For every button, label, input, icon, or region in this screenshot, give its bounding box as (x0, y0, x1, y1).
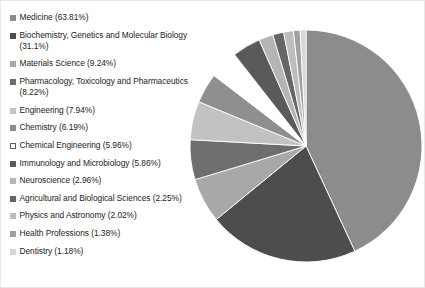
legend-item[interactable]: Materials Science (9.24%) (10, 58, 215, 69)
pie-chart-figure: Medicine (63.81%)Biochemistry, Genetics … (0, 0, 425, 288)
legend-swatch-icon (10, 231, 16, 237)
legend-item-label: Biochemistry, Genetics and Molecular Bio… (20, 30, 216, 52)
legend-swatch-icon (10, 79, 16, 85)
legend-item[interactable]: Pharmacology, Toxicology and Pharmaceuti… (10, 76, 215, 98)
legend-item[interactable]: Dentistry (1.18%) (10, 246, 215, 257)
legend-item-label: Pharmacology, Toxicology and Pharmaceuti… (20, 76, 216, 98)
legend-swatch-icon (10, 143, 16, 149)
legend-swatch-icon (10, 61, 16, 67)
legend-item-label: Neuroscience (2.96%) (20, 175, 102, 186)
legend-swatch-icon (10, 161, 16, 167)
legend-item-label: Materials Science (9.24%) (20, 58, 117, 69)
legend-item-label: Immunology and Microbiology (5.86%) (20, 158, 161, 169)
legend-swatch-icon (10, 213, 16, 219)
legend-swatch-icon (10, 196, 16, 202)
legend-swatch-icon (10, 125, 16, 131)
legend-swatch-icon (10, 33, 16, 39)
legend-swatch-icon (10, 15, 16, 21)
legend-item[interactable]: Health Professions (1.38%) (10, 228, 215, 239)
legend-swatch-icon (10, 178, 16, 184)
legend-item[interactable]: Neuroscience (2.96%) (10, 175, 215, 186)
legend-item[interactable]: Engineering (7.94%) (10, 105, 215, 116)
legend-item[interactable]: Chemical Engineering (5.96%) (10, 140, 215, 151)
legend-item-label: Dentistry (1.18%) (20, 246, 84, 257)
legend-item-label: Health Professions (1.38%) (20, 228, 121, 239)
chart-legend: Medicine (63.81%)Biochemistry, Genetics … (10, 12, 215, 263)
legend-swatch-icon (10, 249, 16, 255)
legend-item[interactable]: Medicine (63.81%) (10, 12, 215, 23)
legend-item[interactable]: Immunology and Microbiology (5.86%) (10, 158, 215, 169)
legend-item[interactable]: Physics and Astronomy (2.02%) (10, 210, 215, 221)
legend-item-label: Medicine (63.81%) (20, 12, 89, 23)
pie-chart-plot-area (189, 29, 423, 263)
legend-item[interactable]: Biochemistry, Genetics and Molecular Bio… (10, 30, 215, 52)
legend-item-label: Engineering (7.94%) (20, 105, 95, 116)
pie-svg (189, 29, 423, 263)
legend-item-label: Chemical Engineering (5.96%) (20, 140, 132, 151)
legend-item[interactable]: Chemistry (6.19%) (10, 122, 215, 133)
legend-item-label: Agricultural and Biological Sciences (2.… (20, 193, 182, 204)
legend-item-label: Physics and Astronomy (2.02%) (20, 210, 137, 221)
legend-item[interactable]: Agricultural and Biological Sciences (2.… (10, 193, 215, 204)
legend-item-label: Chemistry (6.19%) (20, 122, 89, 133)
legend-swatch-icon (10, 108, 16, 114)
